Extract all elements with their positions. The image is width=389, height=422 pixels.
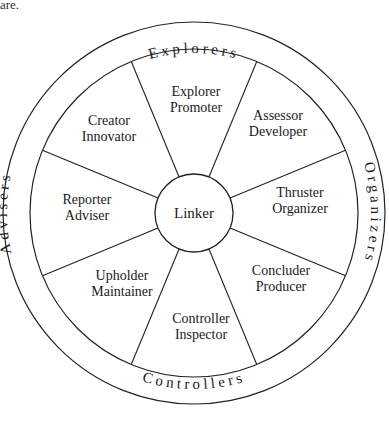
ring-label-top: Explorers xyxy=(147,40,242,62)
spoke-line xyxy=(131,249,179,364)
segment-label: CreatorInnovator xyxy=(82,113,137,144)
segment-label: ConcluderProducer xyxy=(252,263,311,294)
segment-label: AssessorDeveloper xyxy=(249,108,308,139)
spoke-line xyxy=(209,249,257,364)
segment-label: ControllerInspector xyxy=(172,311,230,342)
spoke-line xyxy=(209,61,257,176)
team-role-wheel-diagram: Linker ExplorerPromoterAssessorDeveloper… xyxy=(0,0,389,422)
spoke-line xyxy=(131,61,179,176)
spoke-line xyxy=(42,150,157,198)
segment-label: UpholderMaintainer xyxy=(91,268,153,299)
segment-label: ThrusterOrganizer xyxy=(272,185,328,216)
segment-label: ExplorerPromoter xyxy=(170,84,222,115)
ring-label-right: Organizers xyxy=(361,160,384,266)
hub-label: Linker xyxy=(174,205,214,221)
ring-label-left: Advisers xyxy=(0,170,14,256)
segment-label: ReporterAdviser xyxy=(63,192,112,223)
ring-label-bottom: Controllers xyxy=(141,369,247,392)
